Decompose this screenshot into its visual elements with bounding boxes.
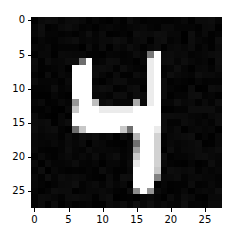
pixel-cell [154,201,161,208]
pixel-cell [133,188,140,195]
pixel-cell [79,133,86,140]
pixel-cell [45,51,52,58]
pixel-cell [72,174,79,181]
pixel-cell [51,37,58,44]
pixel-cell [161,188,168,195]
pixel-cell [167,140,174,147]
pixel-cell [140,24,147,31]
pixel-cell [58,147,65,154]
pixel-cell [51,174,58,181]
pixel-cell [208,153,215,160]
pixel-cell [215,78,222,85]
pixel-cell [208,160,215,167]
pixel-cell [79,78,86,85]
pixel-cell [147,201,154,208]
pixel-cell [92,194,99,201]
pixel-cell [215,119,222,126]
pixel-cell [58,37,65,44]
pixel-cell [174,140,181,147]
pixel-cell [154,51,161,58]
x-axis-tick-label: 15 [130,215,143,225]
pixel-cell [51,31,58,38]
pixel-cell [161,58,168,65]
pixel-cell [65,44,72,51]
pixel-cell [106,140,113,147]
pixel-cell [174,194,181,201]
pixel-cell [51,17,58,24]
pixel-cell [31,167,38,174]
pixel-cell [161,160,168,167]
pixel-cell [113,167,120,174]
pixel-cell [127,99,134,106]
pixel-cell [208,65,215,72]
pixel-cell [154,72,161,79]
pixel-cell [215,140,222,147]
pixel-cell [38,65,45,72]
pixel-cell [161,24,168,31]
pixel-cell [215,181,222,188]
pixel-cell [167,78,174,85]
pixel-cell [72,92,79,99]
pixel-cell [113,78,120,85]
pixel-cell [202,78,209,85]
pixel-cell [79,181,86,188]
pixel-cell [181,31,188,38]
pixel-cell [195,167,202,174]
pixel-cell [147,140,154,147]
pixel-cell [202,99,209,106]
pixel-cell [86,85,93,92]
pixel-cell [86,65,93,72]
pixel-cell [154,126,161,133]
pixel-cell [51,201,58,208]
pixel-cell [188,113,195,120]
pixel-cell [215,194,222,201]
pixel-cell [106,51,113,58]
pixel-cell [181,78,188,85]
pixel-cell [92,126,99,133]
pixel-cell [79,31,86,38]
pixel-cell [154,147,161,154]
pixel-cell [140,31,147,38]
pixel-cell [208,58,215,65]
pixel-cell [120,153,127,160]
pixel-cell [202,126,209,133]
pixel-cell [79,65,86,72]
pixel-cell [147,194,154,201]
pixel-cell [195,106,202,113]
pixel-cell [174,113,181,120]
pixel-cell [133,58,140,65]
pixel-cell [174,119,181,126]
pixel-cell [133,133,140,140]
pixel-cell [79,58,86,65]
pixel-cell [113,160,120,167]
pixel-cell [65,78,72,85]
pixel-cell [113,99,120,106]
pixel-cell [195,17,202,24]
pixel-cell [127,147,134,154]
pixel-cell [79,160,86,167]
pixel-cell [79,153,86,160]
pixel-cell [38,126,45,133]
pixel-cell [92,51,99,58]
pixel-cell [45,119,52,126]
pixel-cell [65,106,72,113]
pixel-cell [174,58,181,65]
pixel-cell [92,188,99,195]
pixel-cell [99,51,106,58]
pixel-cell [181,65,188,72]
pixel-cell [208,51,215,58]
pixel-cell [174,126,181,133]
pixel-cell [167,72,174,79]
pixel-cell [215,17,222,24]
pixel-cell [65,72,72,79]
pixel-cell [181,113,188,120]
pixel-cell [120,78,127,85]
y-axis-tick-label: 5 [19,50,25,60]
pixel-cell [58,201,65,208]
pixel-cell [99,194,106,201]
pixel-cell [72,85,79,92]
pixel-cell [188,181,195,188]
pixel-cell [79,44,86,51]
pixel-cell [31,119,38,126]
pixel-cell [181,181,188,188]
